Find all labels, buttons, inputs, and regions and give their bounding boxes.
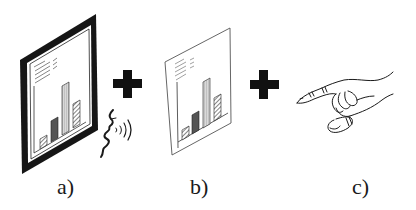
panel-label-c: c) — [352, 176, 369, 198]
tablet-icon — [20, 14, 98, 174]
paper-chart-icon — [165, 28, 231, 155]
panel-label-a: a) — [57, 176, 74, 198]
speech-icon — [101, 110, 131, 157]
pointing-hand-icon — [297, 72, 393, 132]
plus-icon — [250, 70, 279, 99]
plus-icon — [113, 70, 142, 98]
panel-label-b: b) — [190, 176, 208, 198]
